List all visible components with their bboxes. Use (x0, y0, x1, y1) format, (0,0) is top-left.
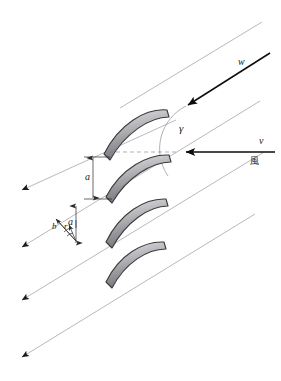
flow-line-5 (22, 120, 176, 190)
vector-w-group (188, 53, 270, 105)
blade-3 (106, 199, 168, 248)
flow-line-3 (22, 152, 264, 300)
label-wind-kanji: 風 (250, 157, 259, 166)
vector-w (188, 53, 270, 105)
flow-line-group (22, 22, 264, 357)
flow-line-4 (22, 214, 255, 357)
label-chord-b: b (52, 222, 57, 231)
label-angle-gamma: γ (179, 123, 183, 134)
label-velocity-w: w (238, 57, 245, 67)
label-pitch-lower-a: a (68, 217, 73, 227)
label-radius-r: r (64, 222, 68, 231)
label-pitch-upper-a: a (85, 172, 90, 182)
diagram-canvas: w v 風 γ a a r b (0, 0, 281, 381)
blade-2 (106, 155, 171, 203)
blade-4 (106, 242, 166, 288)
label-velocity-v: v (259, 136, 263, 146)
